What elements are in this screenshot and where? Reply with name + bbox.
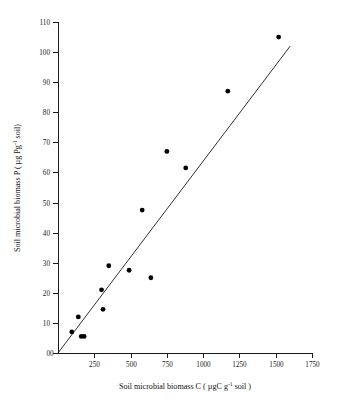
data-point bbox=[82, 334, 87, 339]
data-points-group bbox=[69, 35, 281, 339]
data-point bbox=[140, 208, 145, 213]
y-tick-label: 50 bbox=[43, 200, 51, 208]
data-point bbox=[127, 268, 132, 273]
data-point bbox=[69, 330, 74, 335]
data-point bbox=[106, 263, 111, 268]
data-point bbox=[276, 35, 281, 40]
x-axis-ticks: 02505007501000125015001750 bbox=[50, 350, 320, 369]
y-tick-label: 10 bbox=[43, 320, 51, 328]
x-tick-label: 1500 bbox=[269, 361, 284, 369]
y-tick-label: 80 bbox=[43, 109, 51, 117]
x-tick-label: 1750 bbox=[305, 361, 320, 369]
y-tick-label: 70 bbox=[43, 139, 51, 147]
trendline-group bbox=[58, 46, 290, 353]
y-tick-label: 20 bbox=[43, 290, 51, 298]
y-tick-label: 90 bbox=[43, 79, 51, 87]
y-tick-label: 30 bbox=[43, 260, 51, 268]
data-point bbox=[164, 149, 169, 154]
y-tick-label: 40 bbox=[43, 230, 51, 238]
plot-canvas: 0102030405060708090100110 02505007501000… bbox=[0, 0, 342, 413]
y-axis-ticks: 0102030405060708090100110 bbox=[39, 19, 58, 358]
x-tick-label: 1000 bbox=[196, 361, 211, 369]
x-tick-label: 500 bbox=[126, 361, 137, 369]
scatter-plot-figure: 0102030405060708090100110 02505007501000… bbox=[0, 0, 342, 413]
data-point bbox=[183, 166, 188, 171]
y-tick-label: 60 bbox=[43, 169, 51, 177]
axes-group bbox=[58, 22, 312, 354]
x-tick-label: 750 bbox=[162, 361, 173, 369]
data-point bbox=[148, 275, 153, 280]
regression-line bbox=[58, 46, 290, 353]
data-point bbox=[99, 287, 104, 292]
y-tick-label: 100 bbox=[39, 49, 50, 57]
data-point bbox=[225, 89, 230, 94]
x-tick-label: 250 bbox=[89, 361, 100, 369]
y-axis-title: Soil microbial biomass P ( µg Pg-1 soil) bbox=[12, 124, 22, 252]
data-point bbox=[76, 314, 81, 319]
x-tick-label: 1250 bbox=[232, 361, 247, 369]
data-point bbox=[101, 307, 106, 312]
y-tick-label: 110 bbox=[39, 19, 50, 27]
x-axis-title: Soil microbial biomass C ( µgC g-1 soil … bbox=[119, 381, 251, 391]
x-tick-label: 0 bbox=[50, 350, 54, 358]
